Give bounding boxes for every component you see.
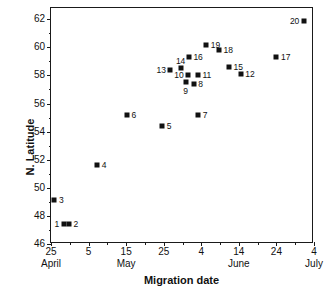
data-point-16 xyxy=(186,55,191,60)
x-tick-label-7: 4 xyxy=(311,247,317,257)
data-point-20 xyxy=(301,18,306,23)
data-point-label-8: 8 xyxy=(198,80,203,89)
y-tick-label-50: 50 xyxy=(34,183,45,193)
y-tick-minor-53 xyxy=(49,146,52,147)
y-tick-52 xyxy=(47,160,51,161)
data-point-label-19: 19 xyxy=(211,41,220,50)
scatter-plot-figure: N. Latitude 464850525456586062 255152541… xyxy=(0,0,324,293)
x-tick-label-0: 25 xyxy=(45,247,56,257)
plot-area: 464850525456586062 2551525414244 AprilMa… xyxy=(50,7,313,243)
data-point-13 xyxy=(168,67,173,72)
x-tick-label-3: 25 xyxy=(158,247,169,257)
data-point-19 xyxy=(204,42,209,47)
y-tick-minor-51 xyxy=(49,174,52,175)
data-point-label-4: 4 xyxy=(102,161,107,170)
x-tick-minor-3 xyxy=(183,242,184,245)
x-axis-title: Migration date xyxy=(50,274,313,286)
data-point-10 xyxy=(186,73,191,78)
data-point-label-20: 20 xyxy=(290,17,299,26)
data-point-4 xyxy=(95,163,100,168)
data-point-label-13: 13 xyxy=(157,66,166,75)
data-point-14 xyxy=(178,66,183,71)
y-tick-label-52: 52 xyxy=(34,155,45,165)
data-point-3 xyxy=(52,198,57,203)
data-point-label-14: 14 xyxy=(176,57,185,66)
x-tick-label-4: 4 xyxy=(199,247,205,257)
data-point-11 xyxy=(195,73,200,78)
y-tick-label-46: 46 xyxy=(34,239,45,249)
x-tick-label-2: 15 xyxy=(121,247,132,257)
data-point-label-9: 9 xyxy=(183,87,188,96)
data-point-label-1: 1 xyxy=(55,220,60,229)
y-tick-50 xyxy=(47,188,51,189)
x-tick-label-6: 24 xyxy=(271,247,282,257)
y-tick-48 xyxy=(47,216,51,217)
data-point-1 xyxy=(61,222,66,227)
data-point-2 xyxy=(67,222,72,227)
x-tick-label-5: 14 xyxy=(233,247,244,257)
x-month-label-may: May xyxy=(117,259,136,269)
x-tick-minor-2 xyxy=(145,242,146,245)
data-point-label-12: 12 xyxy=(245,70,254,79)
x-tick-minor-4 xyxy=(220,242,221,245)
y-tick-minor-57 xyxy=(49,89,52,90)
data-point-12 xyxy=(238,72,243,77)
data-point-label-16: 16 xyxy=(193,53,202,62)
data-point-6 xyxy=(124,112,129,117)
y-tick-56 xyxy=(47,104,51,105)
y-tick-minor-49 xyxy=(49,202,52,203)
data-point-label-15: 15 xyxy=(234,63,243,72)
data-point-8 xyxy=(191,81,196,86)
data-point-label-17: 17 xyxy=(281,53,290,62)
data-point-label-5: 5 xyxy=(167,122,172,131)
y-tick-62 xyxy=(47,19,51,20)
x-tick-minor-6 xyxy=(295,242,296,245)
x-tick-minor-5 xyxy=(258,242,259,245)
data-point-7 xyxy=(196,112,201,117)
y-tick-minor-47 xyxy=(49,230,52,231)
y-tick-label-56: 56 xyxy=(34,99,45,109)
x-tick-minor-0 xyxy=(70,242,71,245)
x-tick-minor-1 xyxy=(107,242,108,245)
data-point-17 xyxy=(274,55,279,60)
y-tick-minor-61 xyxy=(49,33,52,34)
data-point-label-6: 6 xyxy=(131,111,136,120)
data-point-label-11: 11 xyxy=(202,71,211,80)
data-point-label-10: 10 xyxy=(174,71,183,80)
data-point-label-2: 2 xyxy=(74,220,79,229)
data-point-label-7: 7 xyxy=(203,111,208,120)
y-tick-label-54: 54 xyxy=(34,127,45,137)
data-point-5 xyxy=(160,124,165,129)
data-point-label-18: 18 xyxy=(223,46,232,55)
y-tick-54 xyxy=(47,132,51,133)
x-month-label-june: June xyxy=(228,259,250,269)
y-tick-label-48: 48 xyxy=(34,211,45,221)
y-tick-label-58: 58 xyxy=(34,70,45,80)
y-tick-label-62: 62 xyxy=(34,14,45,24)
x-tick-label-1: 5 xyxy=(86,247,92,257)
y-tick-58 xyxy=(47,75,51,76)
x-month-label-april: April xyxy=(41,259,61,269)
x-month-label-july: July xyxy=(305,259,323,269)
y-tick-60 xyxy=(47,47,51,48)
data-point-15 xyxy=(227,65,232,70)
data-point-label-3: 3 xyxy=(59,196,64,205)
y-tick-minor-59 xyxy=(49,61,52,62)
data-point-9 xyxy=(183,80,188,85)
y-tick-minor-55 xyxy=(49,118,52,119)
y-tick-label-60: 60 xyxy=(34,42,45,52)
